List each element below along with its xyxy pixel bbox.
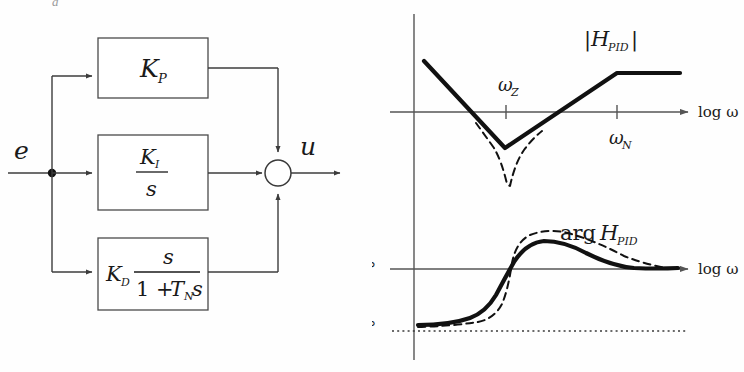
block-diagram-svg: d e K P K I s K D — [0, 0, 372, 372]
block-proportional-gain-sub: P — [157, 71, 167, 86]
phase-xaxis-label: log ω — [698, 260, 738, 278]
phase-title: H — [599, 221, 619, 245]
magnitude-title: H — [590, 27, 610, 51]
magnitude-xaxis-label: log ω — [698, 103, 738, 121]
phase-ytick-minus90deg: -90° — [372, 318, 376, 336]
magnitude-tick-label-wz-sub: Z — [510, 86, 519, 99]
block-derivative-denominator-one: 1 + — [136, 277, 174, 301]
output-label-u: u — [300, 132, 316, 161]
magnitude-title-bar-right: | — [631, 27, 638, 52]
bode-plot-panel: 0dB log ω ω Z ω N | H PID | 0° -90° log … — [372, 0, 744, 372]
block-diagram-panel: d e K P K I s K D — [0, 0, 372, 372]
bode-plot-svg: 0dB log ω ω Z ω N | H PID | 0° -90° log … — [372, 0, 744, 372]
magnitude-title-sub: PID — [607, 41, 629, 54]
block-derivative-denominator-s: s — [192, 277, 203, 301]
pid-controller-figure: d e K P K I s K D — [0, 0, 744, 372]
magnitude-curve-exact — [476, 123, 542, 186]
block-proportional-gain: K — [139, 54, 160, 83]
cropped-page-glyph: d — [52, 0, 59, 9]
summing-junction — [265, 160, 291, 186]
block-integral-denominator: s — [146, 177, 157, 201]
block-integral-numerator-sub: I — [154, 158, 160, 171]
block-derivative-gain-sub: D — [120, 276, 130, 289]
input-label-e: e — [14, 136, 29, 165]
magnitude-tick-label-wn-sub: N — [621, 139, 632, 152]
block-derivative-numerator: s — [163, 245, 174, 269]
phase-curve-exact — [418, 241, 678, 325]
phase-title-sub: PID — [616, 235, 638, 248]
phase-ytick-0deg: 0° — [372, 259, 376, 278]
magnitude-curve-asymptotic — [424, 61, 680, 148]
